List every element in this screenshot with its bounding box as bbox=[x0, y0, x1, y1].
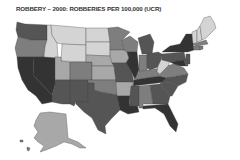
state-new-york bbox=[162, 34, 194, 52]
us-choropleth-map bbox=[0, 0, 240, 160]
state-maine bbox=[200, 16, 216, 40]
state-montana bbox=[51, 25, 86, 45]
state-vermont bbox=[192, 30, 197, 44]
state-kansas bbox=[92, 66, 116, 80]
state-washington bbox=[16, 22, 47, 40]
state-alaska bbox=[34, 112, 86, 152]
state-north-dakota bbox=[86, 28, 110, 42]
state-connecticut bbox=[193, 46, 200, 50]
state-oregon bbox=[15, 37, 47, 57]
state-indiana bbox=[139, 55, 147, 72]
state-colorado bbox=[70, 62, 92, 80]
state-hawaii bbox=[20, 140, 30, 151]
state-south-dakota bbox=[86, 42, 110, 56]
state-wyoming bbox=[61, 44, 86, 62]
state-rhode-island bbox=[200, 46, 203, 50]
state-michigan bbox=[138, 34, 154, 54]
state-wisconsin bbox=[122, 36, 138, 52]
state-iowa bbox=[110, 50, 129, 63]
state-florida bbox=[143, 104, 178, 132]
